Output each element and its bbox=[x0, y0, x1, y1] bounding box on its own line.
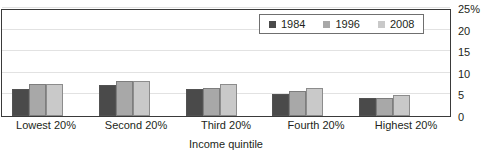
bar-1996[interactable] bbox=[289, 91, 306, 116]
bar-2008[interactable] bbox=[46, 84, 63, 116]
legend-item-2008[interactable]: 2008 bbox=[378, 18, 414, 30]
bar-1984[interactable] bbox=[186, 89, 203, 116]
legend-label: 1996 bbox=[335, 18, 359, 30]
bar-1984[interactable] bbox=[272, 94, 289, 116]
y-axis-tick: 20 bbox=[458, 25, 470, 37]
bar-1996[interactable] bbox=[29, 84, 46, 116]
bar-1996[interactable] bbox=[376, 98, 393, 116]
bar-1996[interactable] bbox=[116, 81, 133, 116]
bar-2008[interactable] bbox=[220, 84, 237, 116]
bar-1996[interactable] bbox=[203, 88, 220, 116]
y-axis-tick: 5 bbox=[458, 89, 464, 101]
legend-item-1984[interactable]: 1984 bbox=[269, 18, 305, 30]
y-axis-tick: 15 bbox=[458, 46, 470, 58]
x-axis-title: Income quintile bbox=[1, 138, 451, 150]
legend-label: 1984 bbox=[281, 18, 305, 30]
bar-2008[interactable] bbox=[133, 81, 150, 116]
bar-1984[interactable] bbox=[12, 89, 29, 116]
bar-2008[interactable] bbox=[393, 95, 410, 116]
y-axis-tick: 25% bbox=[458, 3, 480, 15]
chart-legend: 198419962008 bbox=[259, 14, 424, 34]
bar-chart: 25%20151050 198419962008 Lowest 20%Secon… bbox=[0, 0, 492, 154]
x-axis-label: Third 20% bbox=[181, 119, 271, 135]
legend-item-1996[interactable]: 1996 bbox=[323, 18, 359, 30]
bar-group bbox=[99, 10, 186, 116]
x-axis-label: Fourth 20% bbox=[271, 119, 361, 135]
bar-1984[interactable] bbox=[359, 98, 376, 116]
bar-2008[interactable] bbox=[306, 88, 323, 117]
legend-swatch-icon bbox=[269, 21, 276, 28]
y-axis-tick: 10 bbox=[458, 68, 470, 80]
y-axis-tick: 0 bbox=[458, 111, 464, 123]
x-axis-labels: Lowest 20%Second 20%Third 20%Fourth 20%H… bbox=[1, 119, 451, 135]
legend-swatch-icon bbox=[323, 21, 330, 28]
y-axis: 25%20151050 bbox=[456, 0, 492, 130]
chart-title-cropped bbox=[0, 0, 456, 3]
x-axis-label: Second 20% bbox=[91, 119, 181, 135]
gridline bbox=[2, 7, 450, 8]
bar-1984[interactable] bbox=[99, 85, 116, 116]
legend-swatch-icon bbox=[378, 21, 385, 28]
bar-group bbox=[12, 10, 99, 116]
x-axis-label: Lowest 20% bbox=[1, 119, 91, 135]
legend-label: 2008 bbox=[390, 18, 414, 30]
x-axis-label: Highest 20% bbox=[361, 119, 451, 135]
